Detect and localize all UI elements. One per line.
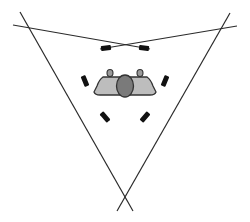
front-left-speaker (101, 45, 112, 51)
front-right-speaker (139, 45, 150, 51)
left-axis-line (20, 12, 133, 211)
right-lower-speaker (140, 111, 151, 123)
right-ear-icon (137, 70, 143, 77)
right-upper-speaker (161, 75, 170, 87)
speaker-layout-diagram (0, 0, 250, 222)
listener (94, 70, 156, 98)
left-upper-speaker (81, 75, 90, 87)
listener-head (117, 75, 134, 97)
left-ear-icon (107, 70, 113, 77)
left-lower-speaker (100, 111, 111, 123)
